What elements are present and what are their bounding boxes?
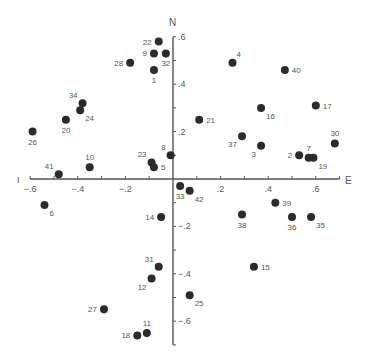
data-point-25: 25: [186, 291, 204, 308]
point-marker: [288, 213, 296, 221]
point-label: 33: [176, 192, 185, 201]
point-marker: [331, 139, 339, 147]
point-label: 31: [145, 255, 154, 264]
y-tick-label: .6: [178, 32, 186, 42]
data-point-10: 10: [85, 153, 94, 171]
point-label: 17: [323, 102, 332, 111]
point-label: 25: [195, 299, 204, 308]
point-label: 42: [195, 195, 204, 204]
point-marker: [176, 182, 184, 190]
data-point-21: 21: [195, 116, 215, 125]
point-label: 5: [161, 163, 166, 172]
point-marker: [312, 102, 320, 110]
data-point-12: 12: [138, 275, 156, 292]
data-point-28: 28: [114, 59, 134, 68]
point-label: 39: [282, 199, 291, 208]
point-marker: [162, 49, 170, 57]
point-marker: [76, 106, 84, 114]
point-label: 19: [318, 162, 327, 171]
point-label: 4: [237, 50, 242, 59]
data-point-30: 30: [330, 129, 339, 147]
data-point-4: 4: [229, 50, 242, 67]
data-point-23: 23: [138, 150, 156, 166]
point-marker: [195, 116, 203, 124]
point-label: 2: [288, 151, 293, 160]
point-marker: [29, 128, 37, 136]
point-marker: [126, 59, 134, 67]
data-point-20: 20: [61, 116, 70, 135]
data-point-35: 35: [307, 213, 325, 230]
y-tick-label: −.4: [178, 269, 191, 279]
data-point-36: 36: [288, 213, 297, 232]
point-marker: [307, 213, 315, 221]
scatter-chart: −.6−.4−.2.2.4.6.6.4.2−.2−.4−.6 123456789…: [0, 0, 368, 362]
point-label: 23: [138, 150, 147, 159]
point-label: 6: [49, 209, 54, 218]
point-label: 3: [252, 150, 257, 159]
data-point-11: 11: [143, 319, 152, 337]
data-point-14: 14: [145, 213, 165, 222]
point-marker: [238, 211, 246, 219]
point-label: 18: [121, 331, 130, 340]
point-label: 7: [306, 144, 311, 153]
point-marker: [271, 199, 279, 207]
data-point-37: 37: [228, 132, 246, 149]
point-label: 32: [161, 59, 170, 68]
point-label: 40: [292, 66, 301, 75]
data-point-27: 27: [88, 305, 108, 314]
point-marker: [295, 151, 303, 159]
x-tick-label: .2: [217, 184, 225, 194]
data-point-39: 39: [271, 199, 291, 208]
data-point-26: 26: [28, 128, 37, 147]
x-axis-label: E: [345, 175, 352, 186]
point-marker: [150, 49, 158, 57]
data-point-42: 42: [186, 187, 204, 204]
point-marker: [281, 66, 289, 74]
data-point-16: 16: [257, 104, 275, 121]
data-point-19: 19: [309, 154, 327, 171]
data-point-17: 17: [312, 102, 332, 111]
y-axis-label: N: [169, 17, 176, 28]
point-label: 24: [85, 114, 94, 123]
point-marker: [40, 201, 48, 209]
point-label: 36: [288, 223, 297, 232]
data-point-24: 24: [76, 106, 94, 123]
data-point-3: 3: [252, 142, 265, 159]
point-marker: [133, 331, 141, 339]
point-label: 37: [228, 140, 237, 149]
data-point-41: 41: [45, 162, 63, 178]
point-label: 30: [330, 129, 339, 138]
point-label: 22: [143, 38, 152, 47]
point-label: 34: [69, 91, 78, 100]
point-marker: [55, 170, 63, 178]
x-tick-label: .4: [264, 184, 272, 194]
point-marker: [238, 132, 246, 140]
point-marker: [257, 104, 265, 112]
point-marker: [250, 263, 258, 271]
point-label: 26: [28, 138, 37, 147]
plot-area: −.6−.4−.2.2.4.6.6.4.2−.2−.4−.6 123456789…: [0, 0, 368, 362]
y-tick-label: .2: [178, 127, 186, 137]
point-label: 27: [88, 305, 97, 314]
y-tick-label: .4: [178, 79, 186, 89]
data-point-1: 1: [150, 66, 158, 85]
point-marker: [148, 158, 156, 166]
data-point-33: 33: [176, 182, 185, 201]
point-marker: [86, 163, 94, 171]
point-marker: [62, 116, 70, 124]
point-marker: [150, 66, 158, 74]
point-label: 28: [114, 59, 123, 68]
point-marker: [100, 305, 108, 313]
point-marker: [148, 275, 156, 283]
x-tick-label: −.4: [71, 184, 84, 194]
point-marker: [186, 291, 194, 299]
point-label: 1: [152, 76, 157, 85]
point-label: 8: [161, 143, 166, 152]
x-tick-label: .6: [312, 184, 320, 194]
data-point-6: 6: [40, 201, 54, 218]
y-tick-label: −.6: [178, 316, 191, 326]
point-label: 15: [261, 263, 270, 272]
point-label: 16: [266, 112, 275, 121]
data-point-31: 31: [145, 255, 163, 271]
point-marker: [157, 213, 165, 221]
